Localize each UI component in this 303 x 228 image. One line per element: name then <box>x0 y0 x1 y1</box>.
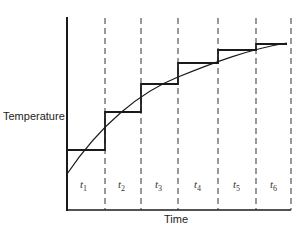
interval-label-t5: t5 <box>233 178 240 193</box>
y-axis-label: Temperature <box>3 110 65 122</box>
step-approximation <box>67 44 287 150</box>
interval-label-t2: t2 <box>118 178 125 193</box>
interval-label-t4: t4 <box>194 178 201 193</box>
temperature-curve <box>67 43 287 174</box>
interval-label-t3: t3 <box>155 178 162 193</box>
x-axis-label: Time <box>164 213 188 225</box>
interval-label-t1: t1 <box>80 178 87 193</box>
interval-label-t6: t6 <box>270 178 277 193</box>
